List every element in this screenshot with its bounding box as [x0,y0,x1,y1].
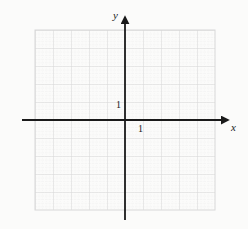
axis-label-x: x [231,122,236,133]
axis-label-y: y [113,10,118,21]
coordinate-plane [0,0,248,229]
tick-label-y-1: 1 [116,100,121,110]
tick-label-x-1: 1 [138,124,143,134]
